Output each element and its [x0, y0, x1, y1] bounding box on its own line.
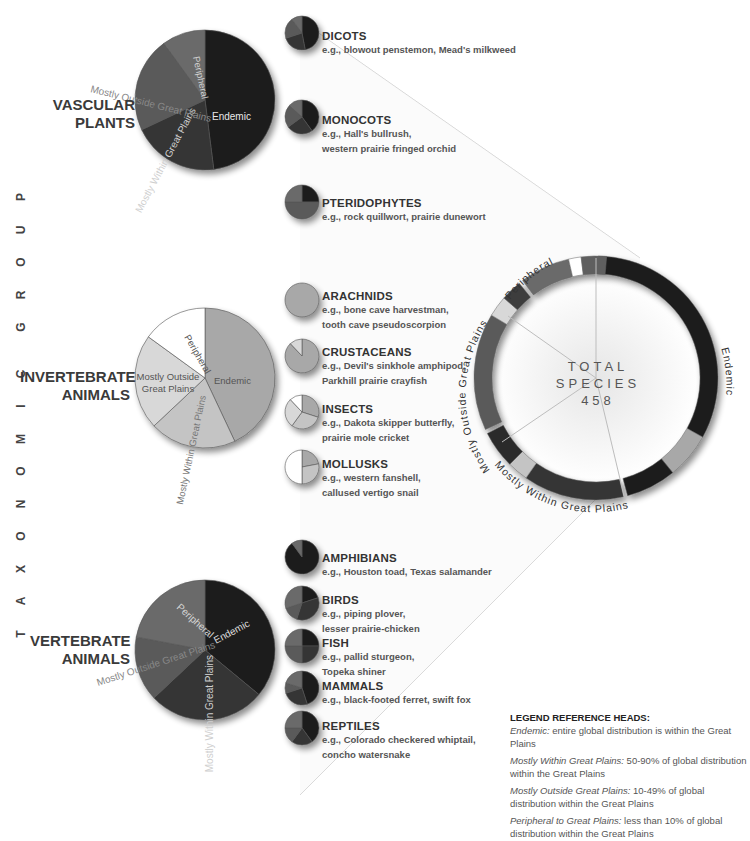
legend-item-peripheral: Peripheral to Great Plains: less than 10…	[510, 814, 750, 840]
subgroup-name: INSECTS	[322, 403, 454, 415]
subgroup-pteridophytes: PTERIDOPHYTESe.g., rock quillwort, prair…	[322, 197, 486, 224]
axis-title-letter: X	[14, 562, 28, 576]
subgroup-example: Parkhill prairie crayfish	[322, 373, 466, 388]
subgroup-example: e.g., Hall's bullrush,	[322, 126, 456, 141]
pie-slice	[285, 450, 302, 484]
subgroup-example: western prairie fringed orchid	[322, 141, 456, 156]
subgroup-name: REPTILES	[322, 720, 476, 732]
pie-insects	[285, 395, 319, 429]
subgroup-name: PTERIDOPHYTES	[322, 197, 486, 209]
subgroup-mammals: MAMMALSe.g., black-footed ferret, swift …	[322, 680, 471, 707]
axis-title-letter: O	[14, 464, 28, 478]
axis-title-letter: N	[14, 497, 28, 511]
axis-title-letter: P	[14, 190, 28, 204]
axis-title-letter: O	[14, 529, 28, 543]
axis-title-letter: A	[14, 594, 28, 608]
pie-arachnids	[285, 283, 319, 317]
subgroup-example: e.g., pallid sturgeon,	[322, 649, 414, 664]
subgroup-name: CRUSTACEANS	[322, 346, 466, 358]
subgroup-example: e.g., black-footed ferret, swift fox	[322, 692, 471, 707]
pie-crustaceans	[285, 339, 319, 373]
subgroup-example: concho watersnake	[322, 747, 476, 762]
group-label-vertebrate: VERTEBRATE ANIMALS	[30, 632, 130, 668]
subgroup-example: e.g., western fanshell,	[322, 470, 421, 485]
group-label-line2: ANIMALS	[30, 650, 130, 668]
pie-monocots	[285, 100, 319, 134]
group-label-line1: VERTEBRATE	[30, 632, 130, 650]
pie-slice	[285, 646, 302, 663]
group-label-line2: PLANTS	[40, 114, 135, 132]
subgroup-example: Topeka shiner	[322, 664, 414, 679]
pie-slice	[285, 185, 302, 202]
axis-title-letter: O	[14, 255, 28, 269]
slice-label-endemic: Endemic	[212, 111, 251, 122]
subgroup-name: MAMMALS	[322, 680, 471, 692]
slice-label-within: Mostly Within Great Plains	[204, 655, 215, 772]
legend-term: Mostly Within Great Plains:	[510, 755, 624, 766]
legend-head: LEGEND REFERENCE HEADS:	[510, 712, 750, 723]
legend-term: Mostly Outside Great Plains:	[510, 785, 630, 796]
axis-title-letter: U	[14, 223, 28, 237]
legend-item-outside: Mostly Outside Great Plains: 10-49% of g…	[510, 784, 750, 810]
legend: LEGEND REFERENCE HEADS: Endemic: entire …	[510, 712, 750, 841]
subgroup-arachnids: ARACHNIDSe.g., bone cave harvestman,toot…	[322, 290, 449, 332]
total-line1: TOTAL	[568, 359, 629, 374]
subgroup-name: MONOCOTS	[322, 114, 456, 126]
legend-item-within: Mostly Within Great Plains: 50-90% of gl…	[510, 754, 750, 780]
ring-segment	[581, 256, 607, 275]
subgroup-name: AMPHIBIANS	[322, 552, 492, 564]
subgroup-birds: BIRDSe.g., piping plover,lesser prairie-…	[322, 594, 420, 636]
subgroup-insects: INSECTSe.g., Dakota skipper butterfly,pr…	[322, 403, 454, 445]
subgroup-example: e.g., Dakota skipper butterfly,	[322, 415, 454, 430]
pie-reptiles	[285, 711, 319, 745]
ring-label-endemic: Endemic	[719, 346, 736, 397]
subgroup-name: MOLLUSKS	[322, 458, 421, 470]
subgroup-name: BIRDS	[322, 594, 420, 606]
pie-pteridophytes	[285, 185, 319, 219]
subgroup-example: callused vertigo snail	[322, 485, 421, 500]
total-line2: SPECIES	[556, 376, 640, 391]
subgroup-example: e.g., Houston toad, Texas salamander	[322, 564, 492, 579]
pie-mollusks	[285, 450, 319, 484]
pie-slice	[285, 629, 302, 646]
pie-birds	[285, 586, 319, 620]
legend-item-endemic: Endemic: entire global distribution is w…	[510, 724, 750, 750]
slice-label-outside-2: Great Plains	[142, 383, 195, 394]
subgroup-fish: FISHe.g., pallid sturgeon,Topeka shiner	[322, 637, 414, 679]
slice-label-outside-1: Mostly Outside	[137, 371, 200, 382]
total-value: 458	[581, 393, 615, 408]
subgroup-example: e.g., rock quillwort, prairie dunewort	[322, 209, 486, 224]
subgroup-monocots: MONOCOTSe.g., Hall's bullrush,western pr…	[322, 114, 456, 156]
subgroup-name: ARACHNIDS	[322, 290, 449, 302]
subgroup-example: tooth cave pseudoscorpion	[322, 317, 449, 332]
subgroup-reptiles: REPTILESe.g., Colorado checkered whiptai…	[322, 720, 476, 762]
pie-fish	[285, 629, 319, 663]
subgroup-name: DICOTS	[322, 30, 516, 42]
pie-amphibians	[285, 540, 319, 574]
legend-term: Peripheral to Great Plains:	[510, 815, 621, 826]
group-label-invertebrate: INVERTEBRATE ANIMALS	[20, 368, 130, 404]
subgroup-example: e.g., piping plover,	[322, 606, 420, 621]
pie-mammals	[285, 671, 319, 705]
group-label-line1: VASCULAR	[40, 96, 135, 114]
group-label-vascular: VASCULAR PLANTS	[40, 96, 135, 132]
axis-title-letter: G	[14, 320, 28, 334]
axis-title-letter: M	[14, 432, 28, 446]
subgroup-example: e.g., Colorado checkered whiptail,	[322, 732, 476, 747]
subgroup-amphibians: AMPHIBIANSe.g., Houston toad, Texas sala…	[322, 552, 492, 579]
pie-slice	[205, 30, 275, 169]
axis-title-letter: T	[14, 627, 28, 641]
axis-title-letter	[14, 353, 28, 367]
subgroup-dicots: DICOTSe.g., blowout penstemon, Mead's mi…	[322, 30, 516, 57]
pie-dicots	[285, 16, 319, 50]
subgroup-example: e.g., blowout penstemon, Mead's milkweed	[322, 42, 516, 57]
pie-slice	[285, 711, 302, 728]
subgroup-crustaceans: CRUSTACEANSe.g., Devil's sinkhole amphip…	[322, 346, 466, 388]
subgroup-example: prairie mole cricket	[322, 430, 454, 445]
legend-term: Endemic:	[510, 725, 550, 736]
pie-slice	[285, 283, 319, 317]
subgroup-mollusks: MOLLUSKSe.g., western fanshell,callused …	[322, 458, 421, 500]
group-label-line2: ANIMALS	[20, 386, 130, 404]
subgroup-example: e.g., bone cave harvestman,	[322, 302, 449, 317]
subgroup-example: lesser prairie-chicken	[322, 621, 420, 636]
